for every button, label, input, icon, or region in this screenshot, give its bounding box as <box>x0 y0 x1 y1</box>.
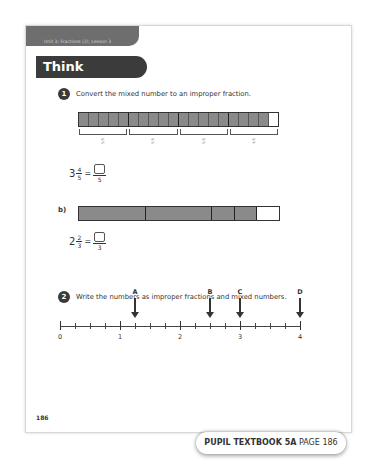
brace-label: 4/5 <box>252 138 256 144</box>
shaded-cell <box>239 113 249 126</box>
tick-label: 0 <box>58 333 62 341</box>
arrow-down-icon <box>209 298 210 312</box>
question-prompt: Write the numbers as improper fractions … <box>76 293 287 301</box>
textbook-name: PUPIL TEXTBOOK 5A <box>204 438 296 447</box>
textbook-page-badge: PUPIL TEXTBOOK 5A PAGE 186 <box>196 432 346 454</box>
shaded-cell <box>209 113 219 126</box>
tick-label: 2 <box>178 333 182 341</box>
minor-tick <box>165 323 166 329</box>
minor-tick <box>210 323 211 329</box>
fraction-bar-a <box>78 112 279 127</box>
whole-number: 3 <box>69 168 75 179</box>
arrow-head-icon <box>236 312 244 318</box>
shaded-cell <box>189 113 199 126</box>
shaded-cell <box>179 113 189 126</box>
arrow-down-icon <box>239 298 240 312</box>
minor-tick <box>195 323 196 329</box>
denominator: 5 <box>77 174 81 181</box>
number-line: 01234ABCD <box>60 316 304 356</box>
page-number: 186 <box>36 414 49 421</box>
marker-arrow-c: C <box>236 288 244 318</box>
minor-tick <box>150 323 151 329</box>
arrow-down-icon <box>134 298 135 312</box>
arrow-head-icon <box>206 312 214 318</box>
fraction-bar-b <box>78 206 280 221</box>
whole-number: 2 <box>69 236 75 247</box>
brace-label: 5/5 <box>202 138 206 144</box>
minor-tick <box>135 323 136 329</box>
part-b-label: b) <box>58 206 66 214</box>
brace-label: 5/5 <box>101 138 105 144</box>
shaded-cell <box>229 113 239 126</box>
shaded-cell <box>259 113 269 126</box>
equation-a: 3 4 5 = 5 <box>69 164 106 183</box>
minor-tick <box>105 323 106 329</box>
minor-tick <box>75 323 76 329</box>
answer-box[interactable] <box>94 164 105 174</box>
shaded-segment <box>212 207 234 220</box>
shaded-cell <box>129 113 139 126</box>
shaded-cell <box>119 113 129 126</box>
brace-label: 5/5 <box>151 138 155 144</box>
shaded-cell <box>159 113 169 126</box>
answer-denominator: 5 <box>98 176 102 183</box>
minor-tick <box>285 323 286 329</box>
major-tick <box>60 321 61 330</box>
denominator: 3 <box>77 242 81 249</box>
tick-label: 3 <box>238 333 242 341</box>
marker-arrow-a: A <box>131 288 139 318</box>
question-number-badge: 1 <box>58 88 70 100</box>
marker-label: B <box>208 288 213 296</box>
unit-label: Unit 3: Fractions (2), Lesson 3 <box>44 39 111 44</box>
question-prompt: Convert the mixed number to an improper … <box>76 90 251 98</box>
shaded-cell <box>99 113 109 126</box>
shaded-segment <box>235 207 257 220</box>
answer-fraction: 3 <box>93 232 106 251</box>
answer-denominator: 3 <box>98 244 102 251</box>
badge-page: PAGE 186 <box>299 438 338 447</box>
answer-box[interactable] <box>94 232 105 242</box>
brace <box>129 129 177 135</box>
question-number-badge: 2 <box>58 291 70 303</box>
numerator: 4 <box>77 166 81 173</box>
textbook-page: Unit 3: Fractions (2), Lesson 3 Think to… <box>25 25 352 433</box>
tick-label: 4 <box>298 333 302 341</box>
empty-segment <box>257 207 279 220</box>
minor-tick <box>270 323 271 329</box>
minor-tick <box>90 323 91 329</box>
numerator: 2 <box>77 234 81 241</box>
fraction: 4 5 <box>76 166 82 181</box>
marker-arrow-b: B <box>206 288 214 318</box>
equation-b: 2 2 3 = 3 <box>69 232 106 251</box>
major-tick <box>120 321 121 330</box>
shaded-cell <box>199 113 209 126</box>
brace <box>230 129 278 135</box>
fraction: 2 3 <box>76 234 82 249</box>
brace-group: 5/55/55/54/5 <box>78 129 279 159</box>
shaded-cell <box>139 113 149 126</box>
marker-label: D <box>297 288 302 296</box>
arrow-head-icon <box>131 312 139 318</box>
major-tick <box>180 321 181 330</box>
minor-tick <box>225 323 226 329</box>
major-tick <box>300 321 301 330</box>
shaded-segment <box>146 207 213 220</box>
equals-sign: = <box>84 237 91 246</box>
equals-sign: = <box>84 169 91 178</box>
marker-label: C <box>238 288 243 296</box>
unit-tab: Unit 3: Fractions (2), Lesson 3 <box>26 26 139 46</box>
brace <box>180 129 228 135</box>
shaded-cell <box>109 113 119 126</box>
empty-cell <box>269 113 278 126</box>
brace <box>79 129 127 135</box>
shaded-cell <box>149 113 159 126</box>
shaded-segment <box>79 207 146 220</box>
arrow-head-icon <box>296 312 304 318</box>
arrow-down-icon <box>299 298 300 312</box>
shaded-cell <box>89 113 99 126</box>
tick-label: 1 <box>118 333 122 341</box>
major-tick <box>240 321 241 330</box>
shaded-cell <box>249 113 259 126</box>
marker-arrow-d: D <box>296 288 304 318</box>
marker-label: A <box>132 288 137 296</box>
